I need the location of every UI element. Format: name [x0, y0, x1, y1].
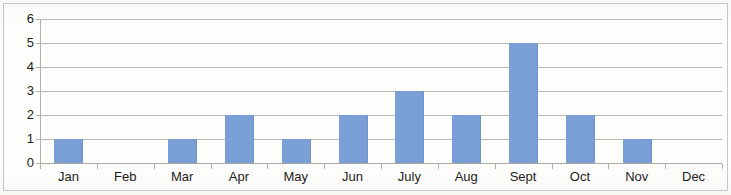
- y-tick-mark-2: [36, 115, 41, 116]
- gridline-6: [40, 19, 722, 20]
- gridline-1: [40, 139, 722, 140]
- x-tick-mark-4: [267, 164, 268, 169]
- y-axis-label-5: 5: [8, 36, 34, 49]
- y-tick-mark-4: [36, 67, 41, 68]
- x-axis-label-aug: Aug: [438, 170, 495, 183]
- x-axis-label-nov: Nov: [608, 170, 665, 183]
- bar-mar: [168, 139, 197, 163]
- x-tick-mark-5: [324, 164, 325, 169]
- y-axis-label-3: 3: [8, 84, 34, 97]
- bar-july: [395, 91, 424, 163]
- gridline-4: [40, 67, 722, 68]
- gridline-5: [40, 43, 722, 44]
- plot-area: [40, 19, 722, 163]
- x-tick-mark-6: [381, 164, 382, 169]
- y-axis-label-4: 4: [8, 60, 34, 73]
- x-tick-mark-8: [495, 164, 496, 169]
- x-tick-mark-end: [722, 164, 723, 169]
- y-axis-label-6: 6: [8, 12, 34, 25]
- x-axis-label-sept: Sept: [495, 170, 552, 183]
- x-tick-mark-2: [154, 164, 155, 169]
- y-axis-tick-labels: 0123456: [0, 0, 34, 195]
- y-axis-label-2: 2: [8, 108, 34, 121]
- x-axis-label-feb: Feb: [97, 170, 154, 183]
- y-axis-label-1: 1: [8, 132, 34, 145]
- bar-chart: 0123456 JanFebMarAprMayJunJulyAugSeptOct…: [0, 0, 731, 195]
- x-tick-mark-1: [97, 164, 98, 169]
- gridline-2: [40, 115, 722, 116]
- x-axis-label-jan: Jan: [40, 170, 97, 183]
- bar-sept: [509, 43, 538, 163]
- x-axis-label-mar: Mar: [154, 170, 211, 183]
- y-tick-mark-6: [36, 19, 41, 20]
- x-tick-mark-3: [211, 164, 212, 169]
- bar-jan: [54, 139, 83, 163]
- bar-nov: [623, 139, 652, 163]
- y-tick-mark-5: [36, 43, 41, 44]
- bar-aug: [452, 115, 481, 163]
- y-axis-label-0: 0: [8, 156, 34, 169]
- x-axis-label-may: May: [267, 170, 324, 183]
- bar-apr: [225, 115, 254, 163]
- x-axis-label-apr: Apr: [211, 170, 268, 183]
- bar-jun: [339, 115, 368, 163]
- x-tick-mark-7: [438, 164, 439, 169]
- x-tick-mark-9: [552, 164, 553, 169]
- x-axis-label-oct: Oct: [552, 170, 609, 183]
- x-tick-mark-11: [665, 164, 666, 169]
- bar-oct: [566, 115, 595, 163]
- y-tick-mark-1: [36, 139, 41, 140]
- x-axis-label-dec: Dec: [665, 170, 722, 183]
- x-axis-label-jun: Jun: [324, 170, 381, 183]
- y-tick-mark-3: [36, 91, 41, 92]
- gridline-3: [40, 91, 722, 92]
- bar-may: [282, 139, 311, 163]
- x-tick-mark-10: [608, 164, 609, 169]
- x-axis-label-july: July: [381, 170, 438, 183]
- x-tick-mark-0: [40, 164, 41, 169]
